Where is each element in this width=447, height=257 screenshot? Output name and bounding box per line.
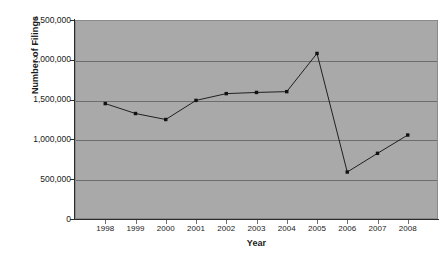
data-point <box>285 90 288 93</box>
data-point <box>164 118 167 121</box>
line-chart: Number of Filings 0500,0001,000,0001,500… <box>0 0 447 257</box>
data-point <box>315 52 318 55</box>
data-point <box>255 91 258 94</box>
series-markers <box>104 52 410 174</box>
data-series-layer <box>0 0 447 257</box>
data-point <box>225 92 228 95</box>
data-point <box>104 102 107 105</box>
data-point <box>134 112 137 115</box>
series-line <box>105 53 408 172</box>
data-point <box>346 170 349 173</box>
data-point <box>194 99 197 102</box>
data-point <box>376 152 379 155</box>
x-axis-title: Year <box>75 238 438 248</box>
data-point <box>406 133 409 136</box>
